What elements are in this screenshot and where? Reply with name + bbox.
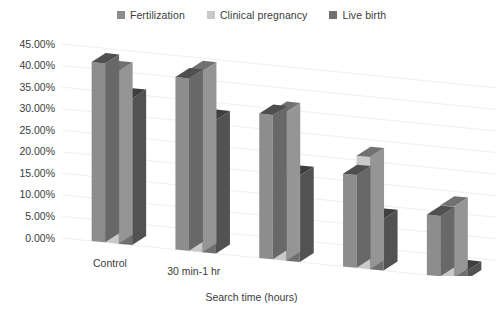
bar-side-face (286, 103, 300, 261)
x-tick-label: 1–2 hr (263, 274, 293, 276)
legend-square-icon (117, 11, 125, 19)
bar-side-face (370, 148, 384, 269)
bar-side-face (440, 207, 454, 276)
bar-front-face (343, 174, 357, 268)
legend-item-clinical-pregnancy: Clinical pregnancy (207, 9, 308, 21)
x-axis-title: Search time (hours) (0, 291, 503, 303)
y-tick-label: 35.00% (19, 81, 55, 93)
y-tick-label: 45.00% (19, 38, 55, 50)
y-tick-label: 15.00% (19, 167, 55, 179)
legend-label: Live birth (342, 9, 386, 21)
y-tick-label: 30.00% (19, 102, 55, 114)
bar-front-face (175, 77, 189, 251)
bar (175, 68, 203, 251)
chart-legend: Fertilization Clinical pregnancy Live bi… (0, 9, 503, 21)
bar-side-face (273, 106, 287, 259)
y-tick-label: 20.00% (19, 145, 55, 157)
bar (92, 53, 120, 242)
x-tick-label: Control (93, 257, 127, 269)
y-tick-label: 10.00% (19, 188, 55, 200)
bar-side-face (105, 54, 119, 242)
y-tick-labels: 0.00%5.00%10.00%15.00%20.00%25.00%30.00%… (19, 38, 55, 244)
bar (343, 165, 371, 268)
bar-side-face (202, 62, 216, 252)
plot-area: 0.00%5.00%10.00%15.00%20.00%25.00%30.00%… (0, 36, 503, 276)
x-tick-label: 30 min-1 hr (167, 265, 221, 276)
legend-square-icon (329, 11, 337, 19)
y-tick-label: 25.00% (19, 124, 55, 136)
bar-side-face (384, 210, 398, 271)
bar-front-face (92, 62, 106, 242)
bar (259, 105, 287, 260)
legend-label: Fertilization (130, 9, 185, 21)
legend-square-icon (207, 11, 215, 19)
legend-item-live-birth: Live birth (329, 9, 386, 21)
bar-front-face (259, 114, 273, 260)
bar-side-face (357, 166, 371, 268)
y-tick-label: 5.00% (25, 210, 55, 222)
bar-side-face (454, 198, 468, 276)
bar-side-face (132, 90, 146, 246)
bar-front-face (427, 215, 441, 276)
bars (92, 53, 482, 276)
legend-label: Clinical pregnancy (220, 9, 308, 21)
bar-side-face (216, 111, 230, 254)
bar-chart: Fertilization Clinical pregnancy Live bi… (0, 0, 503, 315)
bar-side-face (189, 69, 203, 250)
y-tick-label: 40.00% (19, 59, 55, 71)
bar-side-face (119, 62, 133, 243)
bar (427, 206, 455, 276)
legend-item-fertilization: Fertilization (117, 9, 185, 21)
plot-canvas: 0.00%5.00%10.00%15.00%20.00%25.00%30.00%… (0, 36, 503, 276)
y-tick-label: 0.00% (25, 232, 55, 244)
bar-side-face (300, 167, 314, 262)
